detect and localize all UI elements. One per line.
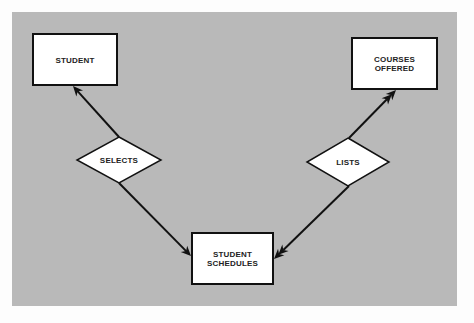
- entity-label-line: COURSES: [374, 55, 415, 64]
- er-diagram: SELECTSLISTS STUDENTCOURSESOFFEREDSTUDEN…: [0, 0, 474, 323]
- relationship-label: SELECTS: [100, 156, 139, 165]
- entity-label-line: STUDENT: [213, 250, 252, 259]
- entity-student: STUDENT: [33, 34, 117, 85]
- relationship-label: LISTS: [336, 158, 360, 167]
- entity-label-line: STUDENT: [55, 56, 94, 65]
- entity-student_schedules: STUDENTSCHEDULES: [192, 233, 273, 284]
- entity-courses_offered: COURSESOFFERED: [352, 38, 437, 89]
- entity-label-line: SCHEDULES: [207, 259, 259, 268]
- entity-label-line: OFFERED: [375, 64, 415, 73]
